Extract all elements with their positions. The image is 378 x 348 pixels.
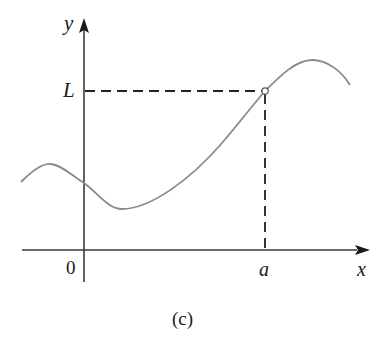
open-point-icon xyxy=(262,88,268,94)
limit-L-label: L xyxy=(63,80,75,101)
figure-caption: (c) xyxy=(172,309,193,328)
point-a-label: a xyxy=(259,259,269,279)
x-axis-label: x xyxy=(357,259,366,279)
limit-diagram: y L 0 a x (c) xyxy=(0,0,378,348)
diagram-svg xyxy=(0,0,378,348)
y-axis-label: y xyxy=(64,13,73,34)
x-axis-arrow-icon xyxy=(355,245,370,255)
x-axis xyxy=(22,245,370,255)
y-axis xyxy=(79,18,89,282)
origin-label: 0 xyxy=(66,258,76,277)
